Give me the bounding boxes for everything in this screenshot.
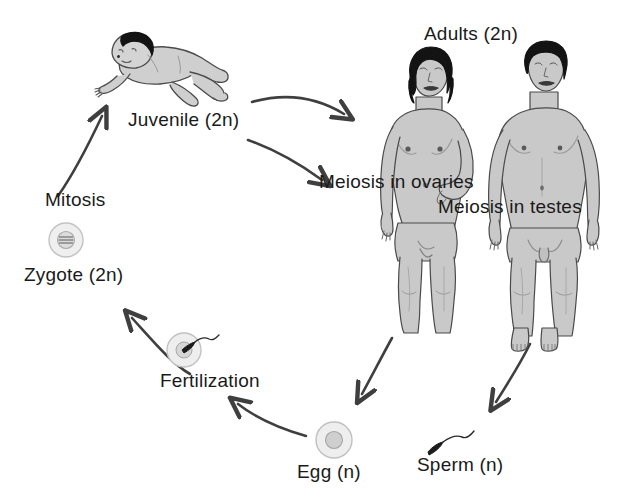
juvenile-figure xyxy=(86,22,236,112)
label-fertilization: Fertilization xyxy=(160,371,260,391)
arrow-female-to-egg xyxy=(362,338,392,394)
label-sperm: Sperm (n) xyxy=(417,455,503,475)
label-adults: Adults (2n) xyxy=(424,24,518,44)
label-egg: Egg (n) xyxy=(297,462,361,482)
label-juvenile: Juvenile (2n) xyxy=(128,110,239,130)
adult-male-figure xyxy=(478,38,618,340)
arrow-egg-to-fertilization xyxy=(238,404,306,436)
male-feet xyxy=(508,326,578,356)
label-meiosis-ovaries: Meiosis in ovaries xyxy=(319,172,474,192)
arrow-juvenile-to-male-adult xyxy=(248,140,322,180)
label-mitosis: Mitosis xyxy=(45,190,106,210)
zygote-cell xyxy=(46,220,86,260)
arrow-zygote-to-juvenile xyxy=(58,116,102,196)
fertilization-cell xyxy=(160,326,240,372)
life-cycle-diagram: Juvenile (2n) Mitosis Zygote (2n) Fertil… xyxy=(0,0,622,504)
label-meiosis-testes: Meiosis in testes xyxy=(438,197,582,217)
arrow-juvenile-to-female-adult xyxy=(252,97,344,114)
label-zygote: Zygote (2n) xyxy=(24,265,123,285)
egg-cell xyxy=(312,418,356,462)
